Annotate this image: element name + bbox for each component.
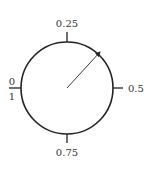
circular-dial-diagram: 0.25 0.5 0.75 0 1 xyxy=(0,0,152,169)
label-right: 0.5 xyxy=(128,83,144,94)
label-bottom: 0.75 xyxy=(56,147,78,158)
label-top: 0.25 xyxy=(56,18,78,29)
label-left-numerator: 0 xyxy=(9,76,15,87)
label-left-denominator: 1 xyxy=(9,91,15,102)
pointer-arrow xyxy=(67,52,100,88)
